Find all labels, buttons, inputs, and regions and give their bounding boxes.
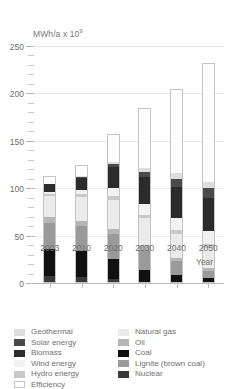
legend-item: Efficiency bbox=[14, 380, 118, 389]
gridline bbox=[34, 93, 224, 94]
legend-swatch-icon bbox=[14, 350, 25, 357]
bar-2020 bbox=[107, 134, 120, 283]
y-axis-tick-label: 150 bbox=[10, 137, 24, 147]
bar-2030 bbox=[138, 108, 151, 283]
bar-segment bbox=[203, 198, 214, 231]
gridline bbox=[34, 188, 224, 189]
legend-label: Geothermal bbox=[31, 327, 73, 337]
bar-segment bbox=[108, 200, 119, 229]
y-axis-title: MWh/a x 109 bbox=[33, 28, 83, 39]
bar-segment bbox=[44, 177, 55, 184]
x-axis-label-2010: 2010 bbox=[72, 243, 91, 253]
y-axis-minor-tick bbox=[28, 198, 34, 199]
bar-segment bbox=[139, 177, 150, 204]
legend-swatch-icon bbox=[118, 350, 129, 357]
legend-swatch-icon bbox=[14, 371, 25, 378]
bar-segment bbox=[76, 178, 87, 190]
bar-2010 bbox=[75, 165, 88, 284]
y-axis-minor-tick bbox=[28, 169, 34, 170]
bar-segment bbox=[203, 188, 214, 198]
x-axis-label-2040: 2040 bbox=[167, 243, 186, 253]
legend-swatch-icon bbox=[118, 371, 129, 378]
legend-swatch-icon bbox=[118, 339, 129, 346]
x-axis-title: Year bbox=[196, 257, 213, 267]
bar-segment bbox=[139, 250, 150, 270]
legend-column-right: Natural gasOilCoalLignite (brown coal)Nu… bbox=[118, 327, 222, 389]
x-axis-label-2003: 2003 bbox=[40, 243, 59, 253]
bar-segment bbox=[203, 64, 214, 181]
y-axis-minor-tick bbox=[28, 112, 34, 113]
y-axis-tick-label: 250 bbox=[10, 42, 24, 52]
x-axis-tick bbox=[82, 284, 83, 288]
bar-segment bbox=[139, 270, 150, 282]
legend-label: Oil bbox=[135, 338, 145, 348]
x-axis-tick bbox=[145, 284, 146, 288]
legend-label: Efficiency bbox=[31, 380, 65, 389]
legend-item: Geothermal bbox=[14, 327, 118, 337]
chart-legend: GeothermalSolar energyBiomassWind energy… bbox=[14, 327, 229, 389]
bar-2003 bbox=[43, 176, 56, 283]
gridline bbox=[34, 46, 224, 47]
bar-segment bbox=[108, 279, 119, 282]
bar-segment bbox=[171, 261, 182, 274]
legend-column-left: GeothermalSolar energyBiomassWind energy… bbox=[14, 327, 118, 389]
bar-segment bbox=[76, 197, 87, 220]
legend-swatch-icon bbox=[14, 360, 25, 367]
y-axis-minor-tick bbox=[28, 245, 34, 246]
energy-scenario-chart: MWh/a x 109 050100150200250 Year Geother… bbox=[0, 0, 238, 389]
y-axis-minor-tick bbox=[28, 122, 34, 123]
legend-item: Lignite (brown coal) bbox=[118, 359, 222, 369]
x-axis-label-2030: 2030 bbox=[135, 243, 154, 253]
bar-segment bbox=[171, 275, 182, 283]
y-axis-tick bbox=[26, 188, 34, 189]
plot-area: 050100150200250 bbox=[34, 46, 224, 284]
legend-swatch-icon bbox=[118, 360, 129, 367]
legend-item: Natural gas bbox=[118, 327, 222, 337]
legend-swatch-icon bbox=[14, 381, 25, 388]
bar-segment bbox=[76, 251, 87, 277]
bar-segment bbox=[44, 276, 55, 282]
bar-segment bbox=[44, 184, 55, 191]
y-axis-minor-tick bbox=[28, 150, 34, 151]
y-axis-tick-label: 50 bbox=[15, 232, 24, 242]
bar-segment bbox=[108, 259, 119, 280]
bar-segment bbox=[203, 271, 214, 279]
y-axis-minor-tick bbox=[28, 274, 34, 275]
y-axis-minor-tick bbox=[28, 103, 34, 104]
y-axis-minor-tick bbox=[28, 217, 34, 218]
bar-segment bbox=[76, 166, 87, 176]
legend-item: Nuclear bbox=[118, 369, 222, 379]
x-axis-tick bbox=[177, 284, 178, 288]
legend-label: Nuclear bbox=[135, 369, 163, 379]
legend-label: Natural gas bbox=[135, 327, 176, 337]
bar-segment bbox=[108, 135, 119, 162]
legend-swatch-icon bbox=[118, 329, 129, 336]
y-axis-tick bbox=[26, 141, 34, 142]
y-axis-minor-tick bbox=[28, 255, 34, 256]
gridline bbox=[34, 236, 224, 237]
legend-item: Hydro energy bbox=[14, 369, 118, 379]
y-axis-tick bbox=[26, 283, 34, 284]
x-axis-label-2050: 2050 bbox=[199, 243, 218, 253]
legend-label: Coal bbox=[135, 348, 151, 358]
bar-segment bbox=[139, 109, 150, 168]
bar-segment bbox=[171, 90, 182, 173]
y-axis-minor-tick bbox=[28, 74, 34, 75]
legend-label: Wind energy bbox=[31, 359, 76, 369]
bar-segment bbox=[108, 188, 119, 196]
legend-item: Wind energy bbox=[14, 359, 118, 369]
x-axis-line bbox=[34, 283, 224, 284]
y-axis-tick-label: 200 bbox=[10, 89, 24, 99]
legend-item: Biomass bbox=[14, 348, 118, 358]
legend-label: Solar energy bbox=[31, 338, 76, 348]
legend-label: Lignite (brown coal) bbox=[135, 359, 205, 369]
bar-segment bbox=[44, 196, 55, 216]
y-axis-tick-label: 100 bbox=[10, 184, 24, 194]
gridline bbox=[34, 141, 224, 142]
bar-segment bbox=[139, 204, 150, 214]
y-axis-minor-tick bbox=[28, 84, 34, 85]
y-axis-minor-tick bbox=[28, 65, 34, 66]
y-axis-tick bbox=[26, 236, 34, 237]
legend-swatch-icon bbox=[14, 329, 25, 336]
y-axis-minor-tick bbox=[28, 179, 34, 180]
